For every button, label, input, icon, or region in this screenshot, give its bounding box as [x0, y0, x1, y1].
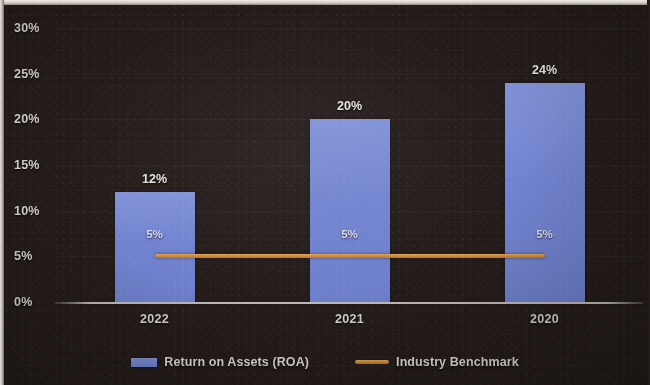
x-axis-line: [55, 302, 643, 304]
x-axis-tick-label: 2020: [530, 312, 559, 326]
y-axis-tick-label: 0%: [14, 295, 60, 309]
legend-line-swatch-icon: [355, 360, 389, 364]
legend-bar-swatch-icon: [131, 358, 157, 367]
y-axis-tick-label: 25%: [14, 67, 60, 81]
x-axis-tick-label: 2022: [140, 312, 169, 326]
legend-label: Return on Assets (ROA): [164, 355, 309, 369]
bar-value-label: 12%: [142, 172, 167, 186]
x-axis-tick-label: 2021: [335, 312, 364, 326]
y-axis-tick-label: 30%: [14, 21, 60, 35]
chart-photo-screenshot: 0%5%10%15%20%25%30%12%5%202220%5%202124%…: [0, 0, 650, 385]
bar-2020: [505, 83, 585, 302]
bar-2021: [310, 119, 390, 302]
y-axis-tick-label: 15%: [14, 158, 60, 172]
photo-edge-left: [0, 0, 4, 385]
industry-benchmark-line: [155, 254, 545, 258]
bar-value-label: 20%: [337, 99, 362, 113]
photo-edge-top: [0, 0, 650, 5]
legend-item-2[interactable]: Industry Benchmark: [355, 355, 519, 369]
bar-2022: [115, 192, 195, 302]
chart-plot-area: 0%5%10%15%20%25%30%12%5%202220%5%202124%…: [0, 0, 650, 385]
gridline: [57, 28, 642, 29]
y-axis-tick-label: 20%: [14, 112, 60, 126]
y-axis-tick-label: 5%: [14, 249, 60, 263]
y-axis-tick-label: 10%: [14, 204, 60, 218]
legend-label: Industry Benchmark: [396, 355, 519, 369]
legend-item-1[interactable]: Return on Assets (ROA): [131, 355, 309, 369]
benchmark-value-label: 5%: [341, 228, 358, 240]
benchmark-value-label: 5%: [146, 228, 163, 240]
chart-legend: Return on Assets (ROA)Industry Benchmark: [0, 350, 650, 374]
benchmark-value-label: 5%: [536, 228, 553, 240]
bar-value-label: 24%: [532, 63, 557, 77]
